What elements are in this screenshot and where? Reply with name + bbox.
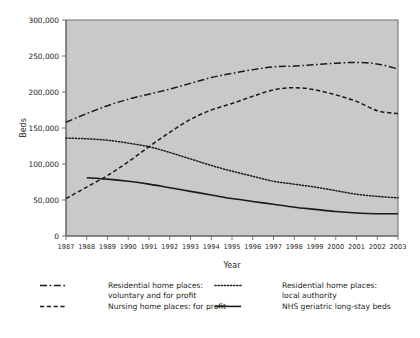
y-tick-label: 200,000 — [28, 88, 59, 97]
chart-figure: 300,000250,000200,000150,000100,00050,00… — [0, 0, 420, 338]
x-tick-label: 1994 — [203, 243, 220, 251]
x-tick-label: 1997 — [265, 243, 282, 251]
y-axis-ticks: 300,000250,000200,000150,000100,00050,00… — [28, 16, 66, 241]
x-tick-label: 1991 — [141, 243, 158, 251]
y-tick-label: 100,000 — [28, 160, 59, 169]
y-tick-label: 0 — [54, 232, 59, 241]
legend-label-3: NHS geriatric long-stay beds — [282, 302, 391, 311]
chart-legend: Residential home places:voluntary and fo… — [40, 281, 391, 311]
x-axis-title: Year — [223, 261, 242, 270]
y-tick-label: 150,000 — [28, 124, 59, 133]
x-tick-label: 1990 — [120, 243, 137, 251]
x-tick-label: 1995 — [224, 243, 241, 251]
legend-label-2: Nursing home places: for profit — [108, 302, 226, 311]
x-tick-label: 2003 — [390, 243, 407, 251]
y-tick-label: 50,000 — [33, 196, 59, 205]
y-tick-label: 250,000 — [28, 52, 59, 61]
legend-label-0-line2: voluntary and for profit — [108, 291, 196, 300]
x-tick-label: 1993 — [182, 243, 199, 251]
x-axis-ticks: 1987198819891990199119921993199419951996… — [58, 236, 407, 251]
y-axis-title: Beds — [19, 118, 28, 138]
legend-label-1-line2: local authority — [282, 291, 337, 300]
x-tick-label: 1996 — [244, 243, 261, 251]
x-tick-label: 2002 — [369, 243, 386, 251]
x-tick-label: 1989 — [99, 243, 116, 251]
legend-label-1: Residential home places: — [282, 281, 377, 290]
x-tick-label: 2001 — [348, 243, 365, 251]
plot-area-background — [66, 20, 398, 236]
x-tick-label: 2000 — [327, 243, 344, 251]
legend-label-0: Residential home places: — [108, 281, 203, 290]
y-tick-label: 300,000 — [28, 16, 59, 25]
chart-svg: 300,000250,000200,000150,000100,00050,00… — [0, 0, 420, 338]
x-tick-label: 1998 — [286, 243, 303, 251]
x-tick-label: 1987 — [58, 243, 75, 251]
x-tick-label: 1988 — [78, 243, 95, 251]
x-tick-label: 1999 — [307, 243, 324, 251]
x-tick-label: 1992 — [161, 243, 178, 251]
